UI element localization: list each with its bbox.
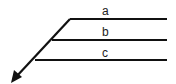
label-c: c (102, 46, 108, 60)
label-a: a (102, 4, 109, 18)
diagram-canvas: a b c (0, 0, 176, 84)
diagonal-arrow-shaft (16, 19, 70, 77)
label-b: b (102, 25, 109, 39)
